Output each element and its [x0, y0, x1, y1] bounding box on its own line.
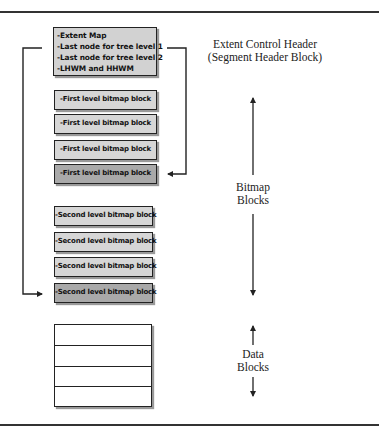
header-line-tree-level-1: -Last node for tree level 1	[57, 41, 153, 52]
label-line: (Segment Header Block)	[190, 51, 340, 64]
segment-header-block: -Extent Map -Last node for tree level 1 …	[53, 27, 157, 76]
data-blocks-label: Data Blocks	[223, 348, 283, 374]
label-line: Blocks	[223, 361, 283, 374]
first-level-bitmap-block-last: -First level bitmap block	[54, 164, 157, 184]
data-block	[55, 325, 151, 346]
left-connector-arrow	[23, 48, 42, 294]
header-line-extent-map: -Extent Map	[57, 30, 153, 41]
label-line: Blocks	[223, 194, 283, 207]
header-line-tree-level-2: -Last node for tree level 2	[57, 52, 153, 63]
label-line: Extent Control Header	[190, 38, 340, 51]
right-connector-arrow	[167, 48, 186, 174]
second-level-bitmap-block-last: -Second level bitmap block	[54, 283, 153, 303]
data-block	[55, 367, 151, 388]
first-level-bitmap-block: -First level bitmap block	[54, 140, 157, 160]
label-line: Bitmap	[223, 181, 283, 194]
label-line: Data	[223, 348, 283, 361]
bitmap-blocks-label: Bitmap Blocks	[223, 181, 283, 207]
data-block	[55, 387, 151, 408]
first-level-bitmap-block: -First level bitmap block	[54, 114, 157, 134]
extent-control-header-label: Extent Control Header (Segment Header Bl…	[190, 38, 340, 64]
first-level-bitmap-block: -First level bitmap block	[54, 90, 157, 110]
second-level-bitmap-block: -Second level bitmap block	[54, 206, 153, 226]
header-line-hwm: -LHWM and HHWM	[57, 63, 153, 74]
second-level-bitmap-block: -Second level bitmap block	[54, 257, 153, 277]
data-block	[55, 346, 151, 367]
second-level-bitmap-block: -Second level bitmap block	[54, 232, 153, 252]
data-blocks-stack	[54, 324, 152, 407]
